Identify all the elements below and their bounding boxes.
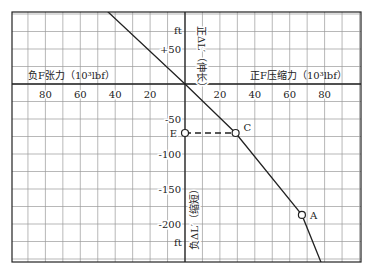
point-marker-c: [232, 130, 239, 137]
x-tick-label: 20: [144, 89, 157, 100]
x-tick-label: 60: [74, 89, 87, 100]
x-tick-label: 40: [109, 89, 122, 100]
y-tick-label: -50: [165, 114, 181, 125]
x-tick-label: 80: [318, 89, 331, 100]
x-label-positive: 正F压缩力（10³lbf）: [250, 69, 347, 81]
y-label-negative: 负ΔL′（缩短）: [188, 184, 200, 250]
point-label-e: E: [170, 128, 177, 139]
x-label-negative: 负F张力（10³lbf）: [28, 69, 115, 81]
point-label-a: A: [309, 210, 318, 221]
point-marker-a: [298, 211, 305, 218]
chart-frame: [12, 12, 361, 262]
y-tick-label: -200: [159, 219, 181, 230]
y-unit-top: ft: [174, 25, 182, 36]
y-tick-label: +50: [160, 44, 181, 55]
point-marker-e: [182, 130, 189, 137]
y-tick-label: -150: [159, 184, 181, 195]
grid-lines: [12, 12, 361, 262]
deflection-chart: 8060402020406080+50-50-100-150-200 ECA 负…: [0, 0, 371, 274]
y-label-positive: 正ΔL′（伸长）: [196, 26, 207, 92]
x-tick-label: 80: [39, 89, 52, 100]
y-tick-label: -100: [159, 149, 181, 160]
point-label-c: C: [244, 122, 252, 133]
x-tick-label: 20: [214, 89, 227, 100]
x-tick-label: 60: [283, 89, 296, 100]
x-tick-label: 40: [248, 89, 261, 100]
y-unit-bottom: ft: [174, 237, 182, 248]
